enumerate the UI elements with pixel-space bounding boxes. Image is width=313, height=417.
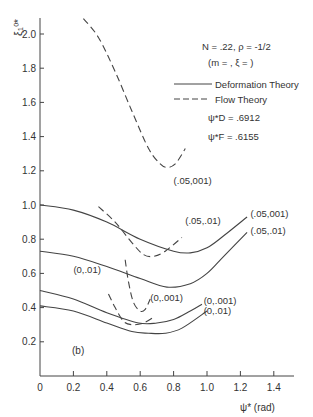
curve-label: (.05,.01) <box>185 215 220 226</box>
x-tick-label: 0.6 <box>133 382 147 393</box>
x-tick-label: 0 <box>37 382 43 393</box>
curve-label: (.05,.01) <box>250 225 285 236</box>
legend-label-flow: Flow Theory <box>215 94 267 105</box>
x-tick-label: 1.4 <box>267 382 281 393</box>
annotation-box: N = .22, ρ = -1/2 (m = , ξ = ) Deformati… <box>174 41 299 142</box>
y-tick-label: 0.6 <box>22 268 36 279</box>
curve-label: (.05,001) <box>250 208 288 219</box>
x-tick-label: 0.8 <box>167 382 181 393</box>
legend-label-deformation: Deformation Theory <box>215 79 299 90</box>
y-tick-label: 1.0 <box>22 200 36 211</box>
panel-label: (b) <box>72 345 84 356</box>
y-tick-label: 1.2 <box>22 165 36 176</box>
params-line1: N = .22, ρ = -1/2 <box>202 41 271 52</box>
y-tick-label: 0.8 <box>22 234 36 245</box>
psi-d-value: ψ*D = .6912 <box>208 112 260 123</box>
y-tick-label: 0.4 <box>22 302 36 313</box>
series-deformation-curve <box>40 205 247 253</box>
series-flow-curve <box>125 260 150 312</box>
series-deformation-curve <box>40 306 207 334</box>
psi-f-value: ψ*F = .6155 <box>208 131 259 142</box>
y-axis: 0.20.40.60.81.01.21.41.61.82.0 ξ₁⁰* <box>12 18 44 376</box>
y-tick-label: 0.2 <box>22 336 36 347</box>
series-flow-curve <box>98 207 182 257</box>
y-tick-label: 1.6 <box>22 97 36 108</box>
curve-label: (.05,001) <box>174 175 212 186</box>
legend: Deformation Theory Flow Theory <box>174 79 299 105</box>
curve-label: (0,.01) <box>73 264 100 275</box>
x-axis-label: ψ* (rad) <box>240 402 275 413</box>
x-tick-label: 1.0 <box>200 382 214 393</box>
y-axis-label: ξ₁⁰* <box>12 18 24 36</box>
params-line2: (m = , ξ = ) <box>208 57 253 68</box>
x-tick-label: 0.4 <box>100 382 114 393</box>
chart: 0.20.40.60.81.01.21.41.61.82.0 ξ₁⁰* 00.2… <box>0 0 313 417</box>
x-axis: 00.20.40.60.81.01.21.4 ψ* (rad) <box>37 371 294 413</box>
curve-labels: (.05,001)(.05,.01)(.05,001)(.05,.01)(0,.… <box>73 175 288 316</box>
series-flow-curve <box>83 19 185 168</box>
y-tick-label: 1.8 <box>22 63 36 74</box>
x-tick-label: 1.2 <box>233 382 247 393</box>
x-tick-label: 0.2 <box>66 382 80 393</box>
curve-label: (0,.001) <box>150 292 183 303</box>
y-tick-label: 1.4 <box>22 131 36 142</box>
curve-label: (0,.01) <box>204 305 231 316</box>
y-tick-label: 2.0 <box>22 29 36 40</box>
